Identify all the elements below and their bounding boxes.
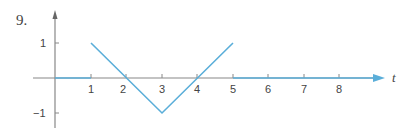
x-tick-label: 1: [88, 83, 94, 95]
y-tick-label: 1: [40, 37, 46, 49]
x-axis-label: t: [392, 70, 396, 85]
x-tick-label: 4: [194, 83, 200, 95]
x-axis-arrow-icon: [373, 74, 385, 82]
x-tick-label: 2: [120, 83, 126, 95]
y-tick-label: −1: [33, 107, 46, 119]
y-axis-arrow-icon: [53, 10, 58, 19]
x-tick-label: 8: [336, 83, 342, 95]
graph: 1 −1 1 2 3 4 5 6 7 8 t: [0, 0, 409, 134]
x-tick-label: 5: [230, 83, 236, 95]
x-tick-label: 3: [159, 83, 165, 95]
x-tick-label: 7: [301, 83, 307, 95]
x-tick-label: 6: [265, 83, 271, 95]
